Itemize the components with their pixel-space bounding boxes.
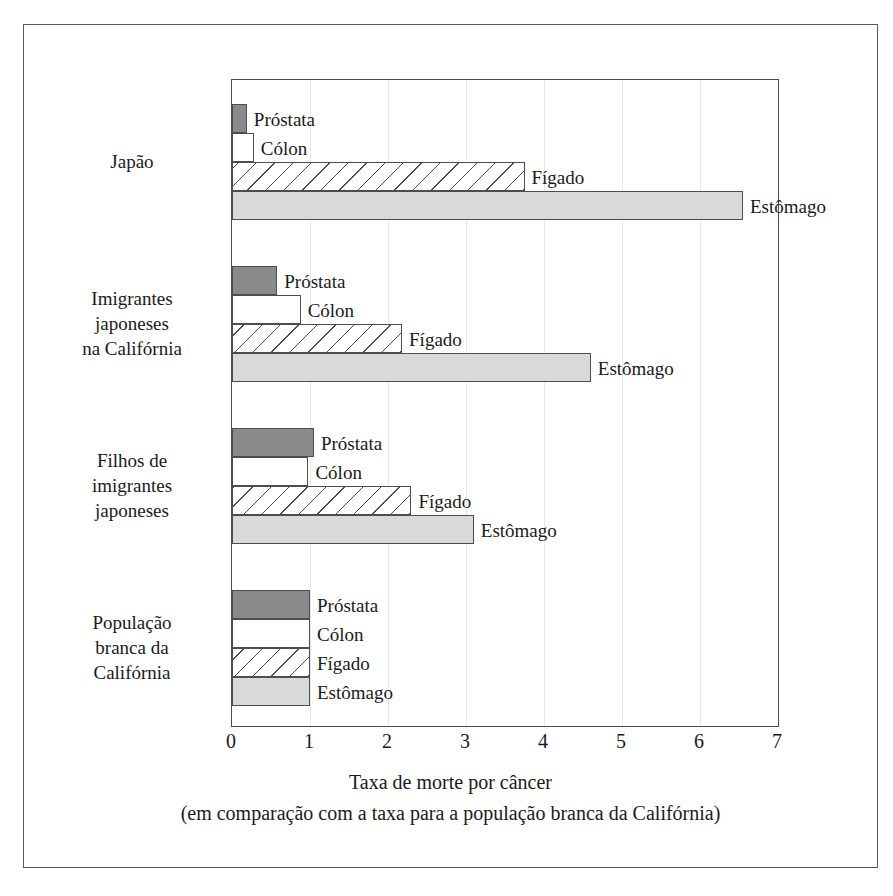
category-label-1: Japão <box>42 149 222 174</box>
bar-estomago[interactable] <box>232 515 474 544</box>
bar-row: Cólon <box>232 133 778 162</box>
bar-colon[interactable] <box>232 295 301 324</box>
bar-label-estomago: Estômago <box>743 196 826 215</box>
x-axis-tick-labels: 01234567 <box>231 731 779 761</box>
x-tick-0: 0 <box>226 731 236 751</box>
bar-row: Estômago <box>232 353 778 382</box>
bar-row: Estômago <box>232 515 778 544</box>
category-label-line: Japão <box>42 149 222 174</box>
x-axis-caption-line-2: (em comparação com a taxa para a populaç… <box>24 798 877 829</box>
bar-figado[interactable] <box>232 162 525 191</box>
bar-label-colon: Cólon <box>301 300 354 319</box>
x-tick-5: 5 <box>616 731 626 751</box>
category-label-line: japoneses <box>42 311 222 336</box>
figure-frame: JapãoImigrantesjaponesesna CalifórniaFil… <box>23 24 878 868</box>
category-label-2: Imigrantesjaponesesna Califórnia <box>42 286 222 361</box>
bar-group-1: PróstataCólonFígadoEstômago <box>232 104 778 220</box>
bar-figado[interactable] <box>232 648 310 677</box>
bar-row: Fígado <box>232 324 778 353</box>
bar-row: Próstata <box>232 590 778 619</box>
bar-row: Estômago <box>232 677 778 706</box>
category-label-line: imigrantes <box>42 473 222 498</box>
category-label-line: Imigrantes <box>42 286 222 311</box>
bar-row: Cólon <box>232 457 778 486</box>
x-tick-1: 1 <box>304 731 314 751</box>
bar-row: Fígado <box>232 162 778 191</box>
bar-row: Fígado <box>232 486 778 515</box>
bar-label-colon: Cólon <box>310 624 363 643</box>
category-label-line: branca da <box>42 635 222 660</box>
bar-group-4: PróstataCólonFígadoEstômago <box>232 590 778 706</box>
bar-row: Cólon <box>232 619 778 648</box>
x-tick-2: 2 <box>382 731 392 751</box>
bar-row: Cólon <box>232 295 778 324</box>
bar-row: Próstata <box>232 266 778 295</box>
bar-label-figado: Fígado <box>525 167 585 186</box>
bar-label-prostata: Próstata <box>314 433 382 452</box>
category-label-line: na Califórnia <box>42 336 222 361</box>
bar-groups-container: PróstataCólonFígadoEstômagoPróstataCólon… <box>232 80 778 726</box>
bar-row: Fígado <box>232 648 778 677</box>
bar-row: Próstata <box>232 104 778 133</box>
bar-label-figado: Fígado <box>402 329 462 348</box>
category-label-line: japoneses <box>42 498 222 523</box>
bar-label-prostata: Próstata <box>277 271 345 290</box>
bar-label-estomago: Estômago <box>591 358 674 377</box>
bar-estomago[interactable] <box>232 677 310 706</box>
bar-figado[interactable] <box>232 486 411 515</box>
x-axis-caption-line-1: Taxa de morte por câncer <box>24 767 877 798</box>
bar-estomago[interactable] <box>232 191 743 220</box>
bar-group-3: PróstataCólonFígadoEstômago <box>232 428 778 544</box>
bar-prostata[interactable] <box>232 104 247 133</box>
bar-label-figado: Fígado <box>310 653 370 672</box>
bar-colon[interactable] <box>232 133 254 162</box>
x-axis-caption: Taxa de morte por câncer (em comparação … <box>24 767 877 829</box>
bar-estomago[interactable] <box>232 353 591 382</box>
bar-label-prostata: Próstata <box>247 109 315 128</box>
bar-prostata[interactable] <box>232 428 314 457</box>
bar-row: Estômago <box>232 191 778 220</box>
bar-prostata[interactable] <box>232 590 310 619</box>
x-tick-6: 6 <box>694 731 704 751</box>
bar-label-estomago: Estômago <box>310 682 393 701</box>
category-label-line: Filhos de <box>42 448 222 473</box>
bar-label-prostata: Próstata <box>310 595 378 614</box>
bar-colon[interactable] <box>232 457 308 486</box>
bar-label-colon: Cólon <box>308 462 361 481</box>
category-label-line: População <box>42 610 222 635</box>
bar-colon[interactable] <box>232 619 310 648</box>
category-label-4: Populaçãobranca daCalifórnia <box>42 610 222 685</box>
bar-label-figado: Fígado <box>411 491 471 510</box>
x-tick-7: 7 <box>772 731 782 751</box>
chart-plot-area: PróstataCólonFígadoEstômagoPróstataCólon… <box>231 79 779 727</box>
bar-group-2: PróstataCólonFígadoEstômago <box>232 266 778 382</box>
category-label-line: Califórnia <box>42 660 222 685</box>
x-tick-4: 4 <box>538 731 548 751</box>
bar-label-colon: Cólon <box>254 138 307 157</box>
bar-prostata[interactable] <box>232 266 277 295</box>
x-tick-3: 3 <box>460 731 470 751</box>
bar-figado[interactable] <box>232 324 402 353</box>
bar-row: Próstata <box>232 428 778 457</box>
category-label-3: Filhos deimigrantesjaponeses <box>42 448 222 523</box>
bar-label-estomago: Estômago <box>474 520 557 539</box>
